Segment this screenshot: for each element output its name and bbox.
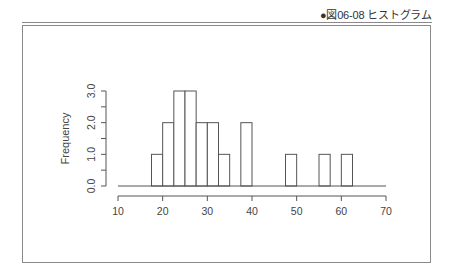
- x-tick-label: 50: [291, 205, 303, 217]
- y-axis-label: Frequency: [59, 112, 71, 164]
- histogram-bar: [196, 123, 207, 186]
- y-tick-label: 0.0: [85, 179, 97, 194]
- histogram-chart: 102030405060700.01.02.03.0Frequency: [0, 0, 454, 278]
- y-tick-label: 2.0: [85, 115, 97, 130]
- histogram-bar: [286, 154, 297, 186]
- x-tick-label: 20: [157, 205, 169, 217]
- y-tick-label: 3.0: [85, 84, 97, 99]
- x-tick-label: 30: [201, 205, 213, 217]
- chart-axes: 102030405060700.01.02.03.0Frequency: [59, 84, 392, 217]
- x-tick-label: 70: [380, 205, 392, 217]
- x-tick-label: 40: [246, 205, 258, 217]
- histogram-bar: [152, 154, 163, 186]
- x-tick-label: 60: [335, 205, 347, 217]
- y-tick-label: 1.0: [85, 147, 97, 162]
- histogram-bar: [163, 123, 174, 186]
- histogram-bar: [341, 154, 352, 186]
- histogram-bar: [185, 91, 196, 186]
- histogram-bar: [207, 123, 218, 186]
- x-tick-label: 10: [112, 205, 124, 217]
- histogram-bar: [219, 154, 230, 186]
- histogram-bar: [241, 123, 252, 186]
- histogram-bar: [174, 91, 185, 186]
- histogram-bars: [152, 91, 353, 186]
- histogram-bar: [319, 154, 330, 186]
